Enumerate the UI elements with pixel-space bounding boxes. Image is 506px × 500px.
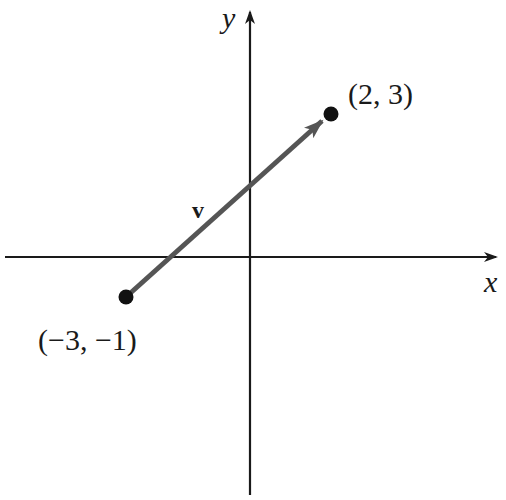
- y-axis-label: y: [219, 1, 236, 34]
- coordinate-plane-diagram: x y v (2, 3) (−3, −1): [0, 0, 506, 500]
- terminal-point-dot: [324, 107, 339, 122]
- x-axis-label: x: [483, 265, 498, 298]
- vector-label: v: [192, 197, 204, 223]
- initial-point-label: (−3, −1): [38, 323, 137, 357]
- vector-v-arrow: [126, 121, 322, 297]
- terminal-point-label: (2, 3): [348, 77, 413, 111]
- initial-point-dot: [119, 290, 134, 305]
